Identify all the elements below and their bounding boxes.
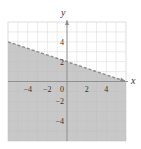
y-axis-label: y bbox=[60, 7, 66, 18]
inequality-graph: −4−2024 42−2−4 x y bbox=[0, 0, 141, 149]
y-tick-label: 4 bbox=[60, 38, 64, 47]
y-axis-arrow-icon bbox=[65, 20, 69, 25]
x-tick-label: 2 bbox=[85, 85, 89, 94]
x-tick-label: −2 bbox=[43, 85, 52, 94]
y-tick-label: −2 bbox=[55, 97, 64, 106]
x-tick-label: −4 bbox=[23, 85, 32, 94]
y-tick-label: −4 bbox=[55, 117, 64, 126]
x-tick-label: 0 bbox=[60, 85, 64, 94]
y-tick-label: 2 bbox=[60, 58, 64, 67]
boundary-arrow-icon bbox=[120, 78, 126, 82]
x-tick-label: 4 bbox=[104, 85, 108, 94]
x-axis-label: x bbox=[130, 75, 136, 86]
